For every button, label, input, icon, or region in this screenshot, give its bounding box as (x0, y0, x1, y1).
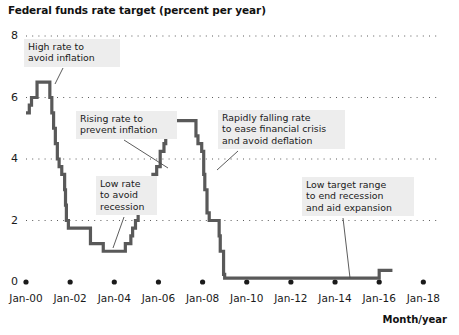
leader-line-low-rate (113, 217, 124, 248)
x-tick-marker-Jan-04 (112, 279, 117, 284)
y-tick-label-6: 6 (2, 91, 18, 104)
chart-figure: Federal funds rate target (percent per y… (0, 0, 459, 335)
x-tick-marker-Jan-00 (23, 279, 28, 284)
annotation-rising-rate: Rising rate to prevent inflation (76, 111, 177, 139)
x-tick-marker-Jan-14 (332, 279, 337, 284)
y-tick-label-4: 4 (2, 152, 18, 165)
leader-line-rapidly-falling (217, 151, 238, 170)
y-tick-label-2: 2 (2, 214, 18, 227)
x-tick-marker-Jan-06 (156, 279, 161, 284)
y-tick-label-8: 8 (2, 29, 18, 42)
leader-line-high-rate (55, 68, 63, 84)
x-tick-marker-Jan-08 (200, 279, 205, 284)
x-tick-marker-Jan-18 (421, 279, 426, 284)
annotation-low-rate: Low rate to avoid recession (96, 176, 157, 215)
annotation-high-rate: High rate to avoid inflation (24, 39, 120, 67)
x-axis-title: Month/year (383, 314, 447, 325)
annotation-rapidly-falling: Rapidly falling rate to ease financial c… (218, 110, 345, 149)
x-tick-marker-Jan-10 (244, 279, 249, 284)
x-tick-marker-Jan-02 (68, 279, 73, 284)
leader-line-low-target-range (343, 218, 350, 278)
y-tick-label-0: 0 (2, 275, 18, 288)
gridlines-group (26, 36, 441, 282)
x-tick-marker-Jan-12 (288, 279, 293, 284)
x-tick-marker-Jan-16 (377, 279, 382, 284)
x-tick-label-Jan-18: Jan-18 (397, 292, 449, 304)
annotation-low-target-range: Low target range to end recession and ai… (302, 177, 414, 216)
